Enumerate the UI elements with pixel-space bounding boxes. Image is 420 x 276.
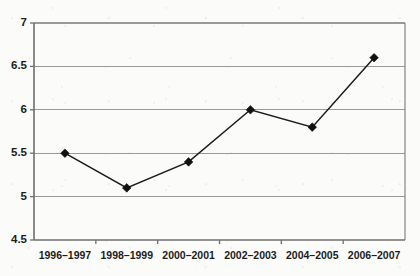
y-tick-label: 5 (21, 190, 28, 202)
data-point-marker (122, 184, 131, 193)
data-series-line (65, 58, 374, 188)
x-tick-label: 1996–1997 (39, 249, 92, 261)
chart-canvas: 76.565.554.5 1996–19971998–19992000–2001… (0, 0, 420, 276)
y-tick-label: 6 (21, 103, 27, 115)
data-point-marker (61, 149, 70, 158)
y-tick-label: 6.5 (11, 59, 28, 71)
data-point-markers (61, 53, 379, 192)
y-axis-tick-labels: 76.565.554.5 (11, 16, 28, 245)
gridlines-group (34, 23, 405, 197)
y-tick-label: 7 (21, 16, 27, 28)
x-tick-label: 2004–2005 (286, 249, 339, 261)
x-axis-tick-labels: 1996–19971998–19992000–20012002–20032004… (39, 249, 401, 261)
x-tick-label: 2006–2007 (348, 249, 401, 261)
y-tick-label: 5.5 (11, 146, 28, 158)
x-tick-label: 1998–1999 (100, 249, 153, 261)
plot-area (34, 23, 405, 240)
x-tick-label: 2002–2003 (224, 249, 277, 261)
x-tick-label: 2000–2001 (162, 249, 215, 261)
y-tick-label: 4.5 (11, 233, 28, 245)
line-chart-figure: 76.565.554.5 1996–19971998–19992000–2001… (0, 0, 420, 276)
